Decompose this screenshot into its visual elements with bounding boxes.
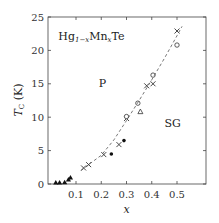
annotation-hgxmnxte: Hg1−xMnxTe <box>58 30 124 44</box>
open-triangle-marker <box>138 109 143 114</box>
filled-circle-marker <box>110 152 114 156</box>
filled-circle-marker <box>122 139 126 143</box>
y-tick-label: 0 <box>38 179 44 190</box>
y-tick-label: 20 <box>31 45 44 56</box>
x-axis-label: x <box>123 203 130 216</box>
open-circle-marker <box>175 43 179 47</box>
y-tick-label: 5 <box>38 145 44 156</box>
annotation-p: P <box>99 77 107 90</box>
cross-marker <box>101 152 106 157</box>
x-tick-label: 0.2 <box>93 189 109 200</box>
y-tick-label: 10 <box>31 112 44 123</box>
x-tick-label: 0.5 <box>169 189 185 200</box>
y-tick-label: 25 <box>31 12 44 23</box>
x-tick-label: 0.3 <box>119 189 135 200</box>
filled-triangle-marker <box>68 175 73 180</box>
filled-triangle-marker <box>57 180 62 185</box>
x-tick-label: 0.4 <box>144 189 160 200</box>
fit-curve-dashed <box>81 26 182 170</box>
open-circle-marker <box>124 114 128 118</box>
y-tick-label: 15 <box>31 78 44 89</box>
x-tick-label: 0.1 <box>68 189 84 200</box>
tc-vs-x-chart: 0.10.20.30.40.50510152025xTC (K)Hg1−xMnx… <box>0 0 219 223</box>
y-axis-label: TC (K) <box>12 83 26 116</box>
filled-triangle-marker <box>62 180 67 185</box>
annotation-sg: SG <box>164 117 180 130</box>
cross-marker <box>151 81 156 86</box>
cross-marker <box>116 142 121 147</box>
